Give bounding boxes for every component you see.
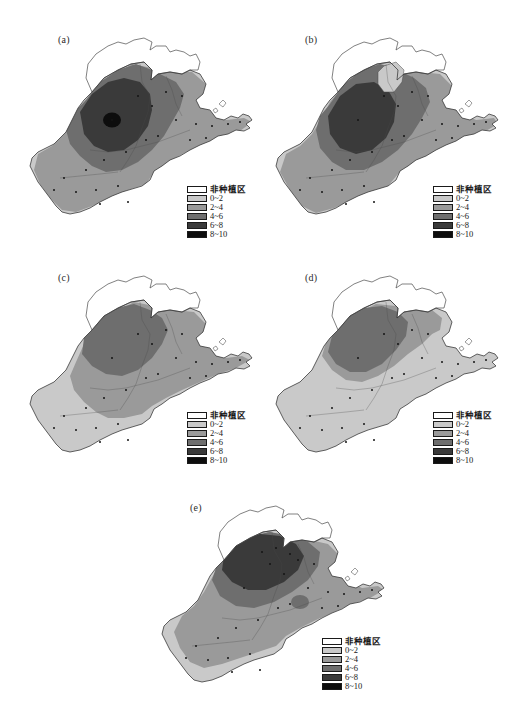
legend-swatch-6-8 bbox=[322, 674, 342, 682]
legend-swatch-non-planting bbox=[187, 186, 207, 194]
legend-swatch-2-4 bbox=[322, 656, 342, 664]
legend-swatch-4-6 bbox=[187, 213, 207, 221]
legend-swatch-2-4 bbox=[433, 204, 453, 212]
legend-swatch-non-planting bbox=[433, 186, 453, 194]
legend-swatch-0-2 bbox=[433, 421, 453, 429]
panel-c: (c) bbox=[0, 226, 260, 486]
legend-row: 8~10 bbox=[433, 456, 492, 465]
legend-panel-e: 非种植区 0~2 2~4 4~6 6~8 8~10 bbox=[322, 637, 381, 691]
legend-panel-d: 非种植区 0~2 2~4 4~6 6~8 8~10 bbox=[433, 411, 492, 465]
legend-row: 8~10 bbox=[322, 682, 381, 691]
legend-swatch-0-2 bbox=[187, 195, 207, 203]
legend-swatch-4-6 bbox=[322, 665, 342, 673]
figure-canvas: (a) bbox=[0, 0, 520, 726]
legend-swatch-non-planting bbox=[433, 412, 453, 420]
panel-e: (e) bbox=[132, 456, 412, 726]
legend-swatch-4-6 bbox=[433, 213, 453, 221]
legend-swatch-non-planting bbox=[322, 638, 342, 646]
legend-swatch-2-4 bbox=[187, 430, 207, 438]
legend-swatch-6-8 bbox=[433, 448, 453, 456]
legend-swatch-0-2 bbox=[187, 421, 207, 429]
legend-swatch-8-10 bbox=[433, 457, 453, 465]
legend-swatch-4-6 bbox=[433, 439, 453, 447]
legend-swatch-0-2 bbox=[322, 647, 342, 655]
legend-label-8-10: 8~10 bbox=[456, 456, 473, 465]
panel-a: (a) bbox=[0, 0, 260, 260]
legend-swatch-6-8 bbox=[187, 448, 207, 456]
legend-swatch-non-planting bbox=[187, 412, 207, 420]
panel-d: (d) bbox=[246, 226, 520, 486]
panel-b: (b) bbox=[246, 0, 520, 260]
legend-swatch-8-10 bbox=[322, 683, 342, 691]
legend-swatch-2-4 bbox=[187, 204, 207, 212]
legend-label-8-10: 8~10 bbox=[345, 682, 362, 691]
legend-swatch-4-6 bbox=[187, 439, 207, 447]
legend-swatch-2-4 bbox=[433, 430, 453, 438]
legend-swatch-0-2 bbox=[433, 195, 453, 203]
